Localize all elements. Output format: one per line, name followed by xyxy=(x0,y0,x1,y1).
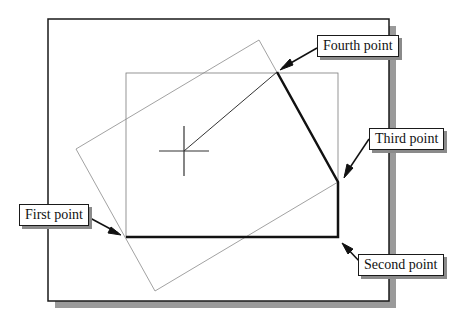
label-third-point: Third point xyxy=(369,128,444,150)
label-first-point: First point xyxy=(19,204,89,226)
label-fourth-point: Fourth point xyxy=(317,35,399,57)
label-second-point: Second point xyxy=(358,254,444,276)
